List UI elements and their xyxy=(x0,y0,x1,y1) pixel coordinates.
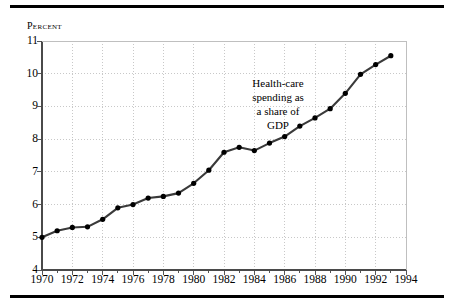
x-tick-label: 1980 xyxy=(182,274,205,286)
data-line xyxy=(42,56,391,238)
annotation-line: Health-care xyxy=(226,76,330,90)
y-axis-tick-labels: 4567891011 xyxy=(12,41,38,270)
data-point-marker xyxy=(176,191,181,196)
data-point-marker xyxy=(130,202,135,207)
x-tick-label: 1972 xyxy=(61,274,84,286)
chart-annotation: Health-carespending asa share ofGDP xyxy=(226,76,330,132)
data-point-marker xyxy=(388,53,393,58)
x-tick-label: 1990 xyxy=(334,274,357,286)
data-series-line xyxy=(42,56,391,238)
x-tick-label: 1988 xyxy=(304,274,327,286)
data-point-marker xyxy=(282,134,287,139)
x-tick-label: 1982 xyxy=(213,274,236,286)
y-tick-label: 10 xyxy=(14,68,38,80)
line-chart-svg xyxy=(42,41,406,270)
x-tick-label: 1992 xyxy=(364,274,387,286)
plot-area xyxy=(42,41,406,270)
x-tick-label: 1986 xyxy=(273,274,296,286)
y-tick-label: 7 xyxy=(14,166,38,178)
data-point-marker xyxy=(206,168,211,173)
x-tick-label: 1970 xyxy=(31,274,54,286)
x-tick-label: 1978 xyxy=(152,274,175,286)
data-point-marker xyxy=(191,181,196,186)
data-markers xyxy=(39,53,393,240)
y-tick-label: 8 xyxy=(14,133,38,145)
data-point-marker xyxy=(373,62,378,67)
x-tick-label: 1976 xyxy=(122,274,145,286)
y-axis-title: Percent xyxy=(27,20,62,31)
data-point-marker xyxy=(267,140,272,145)
x-tick-label: 1994 xyxy=(395,274,418,286)
data-point-marker xyxy=(252,148,257,153)
data-point-marker xyxy=(39,235,44,240)
annotation-line: GDP xyxy=(226,118,330,132)
y-tick-label: 9 xyxy=(14,100,38,112)
data-point-marker xyxy=(221,150,226,155)
annotation-line: spending as xyxy=(226,90,330,104)
x-tick-label: 1984 xyxy=(243,274,266,286)
chart-figure: Percent 4567891011 197019721974197619781… xyxy=(0,0,452,307)
data-point-marker xyxy=(115,205,120,210)
gridlines xyxy=(42,41,406,270)
data-point-marker xyxy=(237,145,242,150)
data-point-marker xyxy=(161,194,166,199)
data-point-marker xyxy=(358,72,363,77)
y-tick-label: 11 xyxy=(14,35,38,47)
data-point-marker xyxy=(100,217,105,222)
data-point-marker xyxy=(70,225,75,230)
annotation-line: a share of xyxy=(226,104,330,118)
data-point-marker xyxy=(55,228,60,233)
bottom-rule xyxy=(10,295,444,298)
data-point-marker xyxy=(146,195,151,200)
x-axis-tick-labels: 1970197219741976197819801982198419861988… xyxy=(0,274,452,292)
data-point-marker xyxy=(343,91,348,96)
axis-ticks xyxy=(37,41,406,275)
x-tick-label: 1974 xyxy=(91,274,114,286)
y-tick-label: 5 xyxy=(14,231,38,243)
top-rule xyxy=(10,5,444,8)
y-tick-label: 6 xyxy=(14,199,38,211)
data-point-marker xyxy=(85,224,90,229)
